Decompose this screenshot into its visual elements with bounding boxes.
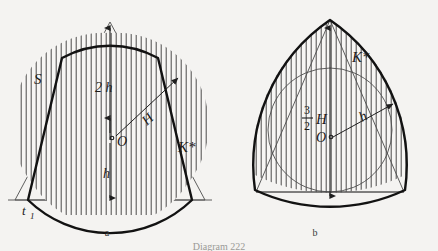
label-tangent-t1-subscript: 1 bbox=[30, 211, 35, 221]
label-dimension-symbol-b: H bbox=[315, 111, 328, 127]
figure-caption: Diagram 222 bbox=[193, 241, 246, 251]
label-region-k-star-a: K* bbox=[177, 139, 196, 155]
label-fraction-denominator-b: 2 bbox=[304, 119, 310, 133]
hatching-b bbox=[245, 12, 420, 217]
sub-caption-b: b bbox=[313, 227, 318, 238]
label-center-o-b: O bbox=[316, 130, 326, 145]
figure-svg: S K* 2 h h O H t 1 a bbox=[0, 0, 438, 251]
label-circle-s: S bbox=[34, 71, 42, 87]
label-fraction-numerator-b: 3 bbox=[304, 103, 310, 117]
label-dimension-2h: 2 h bbox=[95, 80, 113, 95]
sub-caption-a: a bbox=[105, 227, 110, 238]
figure-container: S K* 2 h h O H t 1 a bbox=[0, 0, 438, 251]
label-tangent-t1: t bbox=[22, 203, 26, 218]
label-dimension-h: h bbox=[103, 166, 110, 181]
label-region-k-star-b: K* bbox=[351, 49, 370, 65]
label-center-o-a: O bbox=[117, 134, 127, 149]
panel-b: K* 3 2 H O h b bbox=[245, 12, 420, 238]
panel-a: S K* 2 h h O H t 1 a bbox=[8, 20, 212, 238]
